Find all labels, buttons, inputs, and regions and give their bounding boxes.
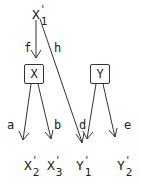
edge-b	[38, 84, 51, 139]
arrowhead-h-icon	[76, 133, 84, 143]
subscript: 3	[56, 166, 63, 179]
node-x1-prime: X'1	[32, 3, 52, 22]
node-y2-prime: Y'2	[117, 154, 137, 173]
edge-label-b: b	[54, 119, 61, 131]
node-y1-prime: Y'1	[76, 154, 96, 173]
edge-d	[87, 84, 96, 139]
node-letter: X	[32, 7, 40, 22]
edge-label-h: h	[54, 42, 61, 54]
edge-label-a: a	[7, 119, 14, 131]
prime-mark: '	[40, 4, 46, 15]
box-y: Y	[90, 64, 110, 84]
node-letter: Y	[76, 158, 84, 173]
node-x2-prime: X'2	[24, 154, 44, 173]
prime-mark: '	[125, 155, 131, 166]
edge-e	[103, 84, 115, 137]
subscript: 1	[41, 15, 48, 28]
prime-mark: '	[55, 155, 61, 166]
node-x3-prime: X'3	[47, 154, 67, 173]
prime-mark: '	[84, 155, 90, 166]
edge-label-e: e	[124, 119, 131, 131]
subscript: 2	[33, 166, 40, 179]
node-letter: Y	[117, 158, 125, 173]
node-letter: X	[47, 158, 55, 173]
node-letter: X	[24, 158, 32, 173]
prime-mark: '	[32, 155, 38, 166]
edge-label-f: f	[24, 42, 31, 54]
edge-label-d: d	[79, 119, 86, 131]
subscript: 2	[126, 166, 133, 179]
edge-a	[23, 84, 31, 140]
box-x: X	[24, 64, 44, 84]
subscript: 1	[85, 166, 92, 179]
